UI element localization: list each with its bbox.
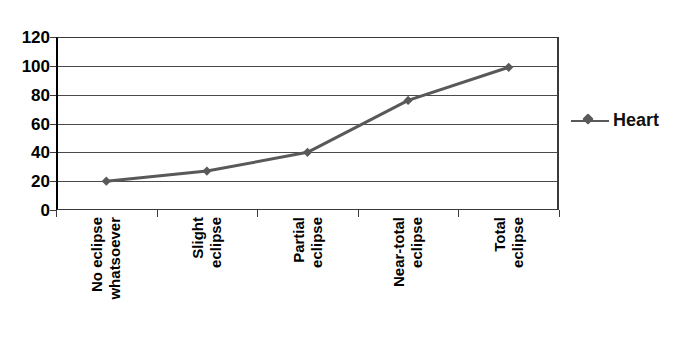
y-axis-labels: 020406080100120 — [0, 0, 50, 346]
x-axis-tick — [458, 210, 459, 217]
x-axis-category-label-line1: Slight — [189, 217, 206, 259]
x-axis-category-label: Near-totaleclipse — [390, 217, 408, 341]
y-axis-tick-label: 80 — [2, 86, 50, 103]
y-axis-tick-label: 120 — [2, 29, 50, 46]
y-axis-tick-label: 40 — [2, 144, 50, 161]
x-axis-category-label-line2: eclipse — [509, 217, 527, 341]
x-axis-tick — [257, 210, 258, 217]
line-chart: 020406080100120 No eclipsewhatsoeverSlig… — [0, 0, 680, 346]
x-axis-category-label-line2: eclipse — [408, 217, 426, 341]
data-point-diamond-icon — [102, 177, 111, 186]
x-axis-tick — [56, 210, 57, 217]
data-point-diamond-icon — [504, 63, 513, 72]
x-axis-category-label-line1: Near-total — [390, 217, 407, 287]
legend: Heart — [571, 110, 659, 131]
y-axis-tick-label: 100 — [2, 57, 50, 74]
y-axis-tick-label: 60 — [2, 115, 50, 132]
x-axis-tick — [157, 210, 158, 217]
x-axis-labels: No eclipsewhatsoeverSlighteclipsePartial… — [56, 217, 559, 346]
y-axis-tick-label: 20 — [2, 173, 50, 190]
y-axis-tick-label: 0 — [2, 202, 50, 219]
x-axis-category-label-line1: No eclipse — [88, 217, 105, 292]
x-axis-category-label-line2: whatsoever — [106, 217, 124, 341]
x-axis-tick — [358, 210, 359, 217]
x-axis-category-label-line2: eclipse — [207, 217, 225, 341]
x-axis-category-label: No eclipsewhatsoever — [88, 217, 106, 341]
data-point-diamond-icon — [202, 166, 211, 175]
x-axis-category-label-line1: Total — [491, 217, 508, 252]
legend-item-label: Heart — [613, 110, 659, 131]
x-axis-category-label: Partialeclipse — [290, 217, 308, 341]
x-axis-category-label: Slighteclipse — [189, 217, 207, 341]
legend-diamond-icon — [571, 114, 609, 128]
series-heart — [56, 37, 559, 210]
x-axis-category-label-line2: eclipse — [308, 217, 326, 341]
series-line — [106, 67, 508, 181]
x-axis-category-label-line1: Partial — [290, 217, 307, 263]
x-axis-category-label: Totaleclipse — [491, 217, 509, 341]
x-axis-tick — [559, 210, 560, 217]
